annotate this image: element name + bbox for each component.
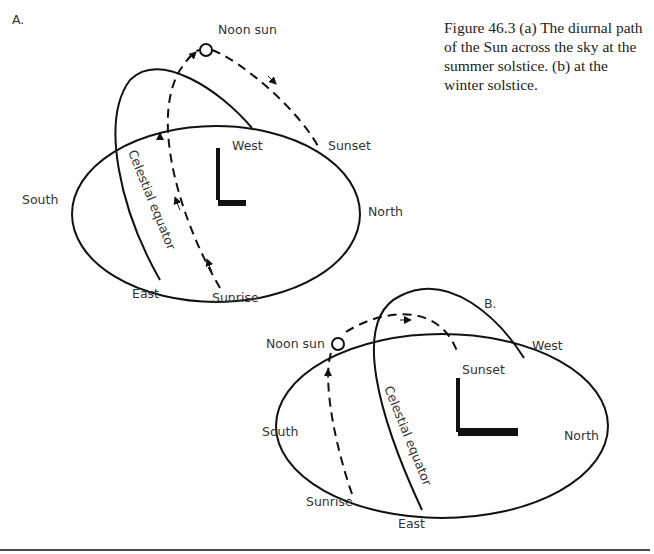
label-sunset-b: Sunset [462, 362, 505, 377]
label-noon-sun-b: Noon sun [266, 336, 325, 351]
noon-sun-icon-b [332, 338, 344, 350]
noon-sun-icon-a [200, 44, 212, 56]
label-south-b: South [262, 424, 298, 439]
label-sunset-a: Sunset [328, 138, 371, 153]
label-north-b: North [564, 428, 599, 443]
label-east-a: East [132, 286, 159, 301]
panel-a-label: A. [12, 12, 24, 27]
observer-icon-a [216, 148, 246, 206]
label-sunrise-b: Sunrise [306, 494, 353, 509]
label-north-a: North [368, 204, 403, 219]
observer-icon-b [456, 378, 518, 436]
label-equator-b: Celestial equator [381, 384, 435, 489]
label-equator-a: Celestial equator [125, 148, 179, 253]
label-noon-sun-a: Noon sun [218, 22, 277, 37]
diagram-canvas: A. Noon sun West Sunset South North East… [0, 0, 654, 554]
sun-path-b [328, 344, 352, 494]
label-east-b: East [398, 516, 425, 531]
panel-b-label: B. [484, 296, 497, 311]
panel-b: Noon sun West Sunset South North Sunrise… [262, 289, 608, 531]
label-west-a: West [232, 138, 263, 153]
panel-a: A. Noon sun West Sunset South North East… [12, 12, 403, 305]
label-south-a: South [22, 192, 58, 207]
sun-path-a [168, 50, 220, 288]
label-west-b: West [532, 338, 563, 353]
horizon-ellipse-b [276, 334, 608, 518]
label-sunrise-a: Sunrise [212, 290, 259, 305]
